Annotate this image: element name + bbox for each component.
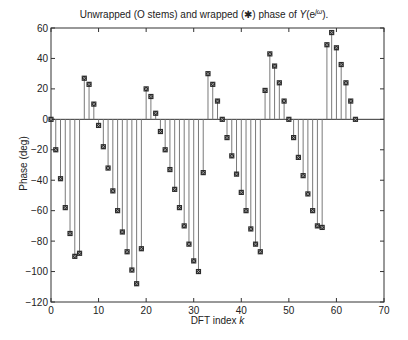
axes-frame (51, 28, 384, 302)
stem-plot: 0102030405060706040200−20−40−60−80−100−1… (0, 0, 408, 340)
y-tick-label: −80 (31, 236, 48, 247)
y-tick-label: −120 (25, 297, 48, 308)
y-tick-label: −100 (25, 266, 48, 277)
y-tick-label: 60 (37, 23, 49, 34)
y-tick-label: −60 (31, 205, 48, 216)
y-tick-label: 20 (37, 83, 49, 94)
y-tick-label: −20 (31, 144, 48, 155)
x-axis-label: DFT index k (51, 315, 384, 326)
y-tick-label: 40 (37, 53, 49, 64)
y-tick-label: 0 (42, 114, 48, 125)
y-axis-label: Phase (deg) (18, 119, 29, 209)
y-tick-label: −40 (31, 175, 48, 186)
